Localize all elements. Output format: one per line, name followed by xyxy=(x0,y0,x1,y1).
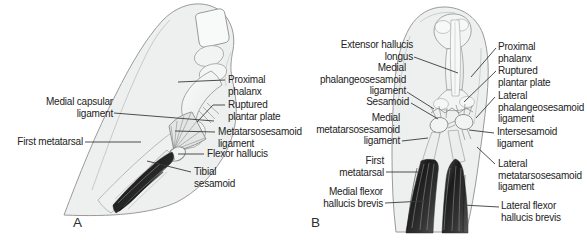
label-medial-flexor-hallucis-brevis: Medial flexor hallucis brevis xyxy=(323,186,383,209)
label-line: Extensor hallucis xyxy=(341,39,413,51)
label-line: Medial xyxy=(320,62,406,74)
label-line: plantar plate xyxy=(498,77,550,89)
label-tibial-sesamoid: Tibial sesamoid xyxy=(194,166,235,189)
label-flexor-hallucis: Flexor hallucis xyxy=(207,148,268,160)
label-line: ligament xyxy=(316,135,400,147)
label-line: metatarsosesamoid xyxy=(498,170,582,182)
label-line: ligament xyxy=(497,138,557,150)
label-line: sesamoid xyxy=(194,178,235,190)
anatomy-figure: Medial capsular ligament First metatarsa… xyxy=(0,0,587,248)
label-line: Metatarsosesamoid xyxy=(218,126,302,138)
label-sesamoid: Sesamoid xyxy=(366,96,409,108)
label-line: ligament xyxy=(498,113,584,125)
label-line: Proximal xyxy=(228,74,265,86)
label-line: Ruptured xyxy=(228,99,280,111)
label-line: Flexor hallucis xyxy=(207,148,268,160)
label-metatarsosesamoid-ligament-a: Metatarsosesamoid ligament xyxy=(218,126,302,149)
label-line: phalangeosesamoid xyxy=(320,74,406,86)
label-proximal-phalanx-a: Proximal phalanx xyxy=(228,74,265,97)
label-line: Ruptured xyxy=(498,65,550,77)
label-ruptured-plantar-plate-a: Ruptured plantar plate xyxy=(228,99,280,122)
phalanx-condyle-b1 xyxy=(435,21,451,34)
label-medial-metatarsosesamoid-ligament: Medial metatarsosesamoid ligament xyxy=(316,112,400,147)
label-intersesamoid-ligament: Intersesamoid ligament xyxy=(497,126,557,149)
label-line: phalanx xyxy=(498,53,535,65)
label-line: Lateral xyxy=(498,90,584,102)
label-line: Sesamoid xyxy=(366,96,409,108)
label-line: Lateral flexor xyxy=(501,200,561,212)
label-line: Tibial xyxy=(194,166,235,178)
label-line: Lateral xyxy=(498,158,582,170)
label-medial-phalangeosesamoid-ligament: Medial phalangeosesamoid ligament xyxy=(320,62,406,97)
label-line: Medial capsular xyxy=(46,96,113,108)
label-line: ligament xyxy=(46,108,113,120)
label-lateral-metatarsosesamoid-ligament: Lateral metatarsosesamoid ligament xyxy=(498,158,582,193)
panel-letter-a: A xyxy=(73,215,82,230)
label-proximal-phalanx-b: Proximal phalanx xyxy=(498,41,535,64)
panel-letter-b: B xyxy=(311,215,320,230)
label-line: ligament xyxy=(320,85,406,97)
label-extensor-hallucis-longus: Extensor hallucis longus xyxy=(341,39,413,62)
label-line: Proximal xyxy=(498,41,535,53)
label-line: Medial flexor xyxy=(323,186,383,198)
label-line: First xyxy=(339,155,384,167)
label-line: Intersesamoid xyxy=(497,126,557,138)
toenail xyxy=(196,9,230,47)
label-line: Medial xyxy=(316,112,400,124)
label-line: hallucis brevis xyxy=(501,212,561,224)
label-line: First metatarsal xyxy=(17,136,83,148)
phalanx-base-condyle-b1 xyxy=(434,99,449,110)
label-lateral-phalangeosesamoid-ligament: Lateral phalangeosesamoid ligament xyxy=(498,90,584,125)
label-line: plantar plate xyxy=(228,111,280,123)
label-line: metatarsal xyxy=(339,167,384,179)
label-ruptured-plantar-plate-b: Ruptured plantar plate xyxy=(498,65,550,88)
label-first-metatarsal-a: First metatarsal xyxy=(17,136,83,148)
label-line: hallucis brevis xyxy=(323,198,383,210)
label-line: metatarsosesamoid xyxy=(316,124,400,136)
label-medial-capsular-ligament: Medial capsular ligament xyxy=(46,96,113,119)
label-lateral-flexor-hallucis-brevis: Lateral flexor hallucis brevis xyxy=(501,200,561,223)
extensor-tendon-b xyxy=(450,20,460,96)
label-first-metatarsal-b: First metatarsal xyxy=(339,155,384,178)
label-line: ligament xyxy=(498,181,582,193)
label-line: longus xyxy=(341,51,413,63)
phalanx-base-condyle-b2 xyxy=(460,97,475,108)
label-line: phalangeosesamoid xyxy=(498,102,584,114)
label-line: phalanx xyxy=(228,86,265,98)
